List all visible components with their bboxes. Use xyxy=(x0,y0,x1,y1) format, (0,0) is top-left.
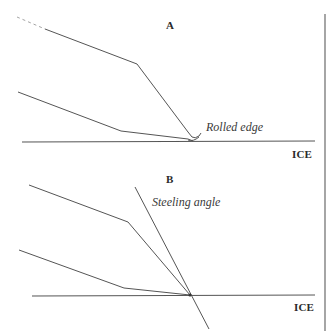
edge-contact-point xyxy=(188,293,191,296)
panel-label-a: A xyxy=(166,20,174,31)
blade-profile-upper-a xyxy=(45,29,192,137)
diagram-drawing xyxy=(0,0,330,331)
rolled-edge-annotation: Rolled edge xyxy=(206,121,263,133)
ice-label-a: ICE xyxy=(292,149,312,160)
ice-surface-line-a xyxy=(22,141,315,142)
panel-label-b: B xyxy=(166,174,173,185)
rolled-edge-hook xyxy=(192,133,201,138)
panel-a-drawing xyxy=(17,17,315,142)
ice-surface-line-b xyxy=(32,295,315,296)
steeling-angle-annotation: Steeling angle xyxy=(152,196,220,208)
blade-profile-upper-a-faint xyxy=(17,17,45,29)
blade-profile-lower-a xyxy=(18,92,193,141)
ice-label-b: ICE xyxy=(294,302,314,313)
skate-edge-diagram: A Rolled edge ICE B Steeling angle ICE xyxy=(0,0,330,331)
blade-profile-lower-b xyxy=(19,250,190,295)
